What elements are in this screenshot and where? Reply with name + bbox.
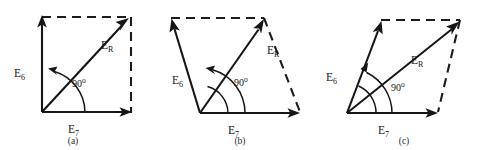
angle-arc-inner-b [208, 87, 229, 114]
vector-diagram-b: E6 E7 ER 90o (b) [162, 0, 328, 150]
caption-b: (b) [234, 136, 245, 147]
diagram-panel-c: E6 E7 ER 90o (c) [328, 0, 494, 150]
label-angle-b: 90o [234, 75, 248, 88]
caption-a: (a) [68, 136, 79, 147]
caption-c: (c) [399, 136, 410, 147]
angle-arc-arrowhead-a [48, 67, 58, 76]
diagram-panel-b: E6 E7 ER 90o (b) [162, 0, 328, 150]
angle-arc-outer-c [367, 73, 393, 114]
label-E6-c: E6 [326, 71, 337, 86]
vector-ER-b [200, 30, 259, 114]
vector-diagram-c: E6 E7 ER 90o (c) [328, 0, 494, 150]
dashed-side-right-c [438, 20, 460, 112]
arrowhead-ER-b [253, 19, 264, 34]
dashed-side-right-b [264, 18, 300, 112]
diagram-panel-a: E6 E7 ER 90o (a) [0, 0, 162, 150]
vector-E6-b [175, 29, 201, 113]
label-ER-b: ER [267, 44, 280, 59]
label-angle-c: 90o [391, 80, 405, 93]
label-E6-b: E6 [172, 74, 183, 89]
vector-diagram-a: E6 E7 ER 90o (a) [0, 0, 162, 150]
figure-root: E6 E7 ER 90o (a) E6 [0, 0, 494, 150]
angle-arc-inner-c [359, 86, 377, 113]
label-E7-c: E7 [378, 124, 389, 139]
label-E6-a: E6 [14, 67, 25, 82]
label-angle-a: 90o [72, 76, 86, 89]
label-ER-c: ER [411, 54, 424, 69]
label-ER-a: ER [101, 39, 114, 54]
